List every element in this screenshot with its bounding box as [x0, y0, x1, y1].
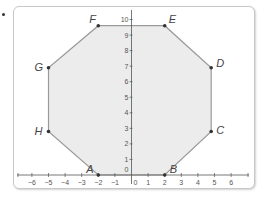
y-tick-label: 0: [125, 166, 129, 173]
vertex-label-e: E: [169, 13, 177, 25]
x-tick-label: 5: [213, 179, 217, 186]
y-tick-label: 1: [125, 156, 129, 163]
vertex-point-e: [163, 24, 167, 28]
x-tick-label: 0: [134, 179, 138, 186]
vertex-label-d: D: [216, 57, 224, 69]
x-tick-label: 1: [146, 179, 150, 186]
vertex-point-a: [97, 173, 101, 177]
x-tick-label: 2: [163, 179, 167, 186]
vertex-label-b: B: [170, 163, 177, 175]
vertex-point-g: [47, 66, 51, 70]
y-tick-label: 8: [125, 47, 129, 54]
y-tick-label: 7: [125, 63, 129, 70]
y-tick-label: 6: [125, 78, 129, 85]
octagon-layer: [49, 26, 212, 175]
vertex-label-h: H: [35, 125, 43, 137]
x-tick-label: −2: [94, 179, 102, 186]
vertex-label-c: C: [216, 124, 224, 136]
x-tick-label: −6: [28, 179, 36, 186]
y-tick-label: 4: [125, 109, 129, 116]
y-tick-label: 10: [121, 16, 129, 23]
vertex-label-g: G: [35, 61, 44, 73]
coordinate-plane: −6−5−4−3−2−10123456012345678910 ABCDEFGH: [0, 0, 263, 197]
vertex-point-f: [97, 24, 101, 28]
x-tick-label: −5: [45, 179, 53, 186]
vertex-point-c: [209, 130, 213, 134]
octagon-shape: [49, 26, 212, 175]
x-tick-label: 6: [229, 179, 233, 186]
x-tick-label: −1: [111, 179, 119, 186]
vertex-label-f: F: [89, 13, 97, 25]
y-tick-label: 5: [125, 94, 129, 101]
x-tick-label: −3: [78, 179, 86, 186]
x-tick-label: −4: [61, 179, 69, 186]
y-tick-label: 2: [125, 140, 129, 147]
vertex-point-b: [163, 173, 167, 177]
x-tick-label: 4: [196, 179, 200, 186]
vertex-point-h: [47, 130, 51, 134]
x-tick-label: 3: [179, 179, 183, 186]
vertex-point-d: [209, 66, 213, 70]
y-tick-label: 3: [125, 125, 129, 132]
y-tick-label: 9: [125, 32, 129, 39]
vertex-label-a: A: [85, 163, 93, 175]
